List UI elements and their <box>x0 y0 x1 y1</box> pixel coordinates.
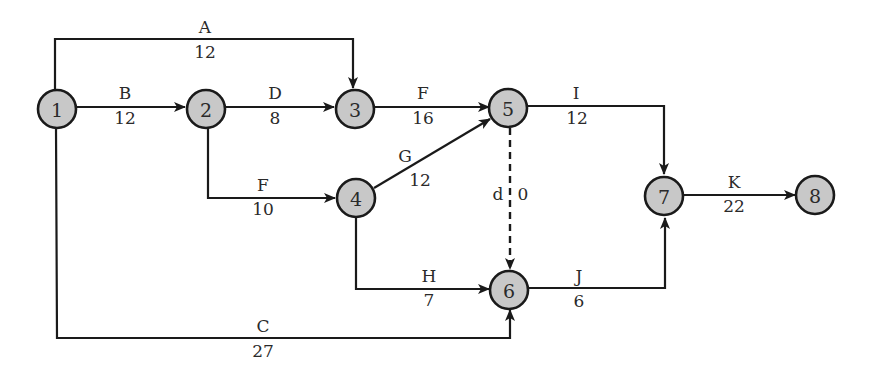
node-1-label: 1 <box>51 99 63 121</box>
edge-F-3-5: F 16 <box>374 83 489 128</box>
edge-K-activity: K <box>728 172 741 192</box>
node-8-label: 8 <box>809 185 821 207</box>
edge-F-2-4-duration: 10 <box>252 199 274 219</box>
edge-D-duration: 8 <box>270 108 281 128</box>
edge-D: D 8 <box>225 83 334 128</box>
node-7-label: 7 <box>658 186 670 208</box>
edge-C: C 27 <box>56 128 510 361</box>
edge-I: I 12 <box>528 83 664 174</box>
edge-H-duration: 7 <box>424 290 435 310</box>
network-diagram: A 12 B 12 C 27 D 8 F 10 F 16 G 12 H <box>0 0 873 374</box>
edge-J-duration: 6 <box>574 291 585 311</box>
edge-B-duration: 12 <box>114 108 136 128</box>
node-1: 1 <box>38 90 76 128</box>
edge-A: A 12 <box>55 17 353 90</box>
edge-J: J 6 <box>529 218 665 311</box>
node-2: 2 <box>187 90 225 128</box>
edge-G-duration: 12 <box>409 170 431 190</box>
edge-H-activity: H <box>422 266 437 286</box>
edge-G-activity: G <box>398 146 412 166</box>
node-6-label: 6 <box>503 280 515 302</box>
edge-K: K 22 <box>684 172 795 216</box>
edge-C-activity: C <box>256 316 269 336</box>
edge-I-activity: I <box>573 83 580 103</box>
edge-B-activity: B <box>119 83 132 103</box>
edge-H: H 7 <box>356 217 489 310</box>
edge-B: B 12 <box>76 83 185 128</box>
edge-A-duration: 12 <box>194 42 216 62</box>
node-2-label: 2 <box>200 99 212 121</box>
edge-F-2-4-activity: F <box>257 175 269 195</box>
edge-F-3-5-duration: 16 <box>412 108 434 128</box>
node-8: 8 <box>796 176 834 214</box>
edge-F-2-4: F 10 <box>208 127 335 219</box>
edge-J-activity: J <box>574 266 583 286</box>
edge-K-duration: 22 <box>723 196 745 216</box>
node-4-label: 4 <box>350 188 362 210</box>
edge-D-activity: D <box>268 83 282 103</box>
edge-dummy-activity: d <box>493 184 504 204</box>
edge-C-duration: 27 <box>252 341 274 361</box>
node-3: 3 <box>336 90 374 128</box>
node-4: 4 <box>337 179 375 217</box>
node-3-label: 3 <box>349 99 361 121</box>
node-6: 6 <box>490 271 528 309</box>
edge-G: G 12 <box>374 119 490 190</box>
edge-I-duration: 12 <box>566 108 588 128</box>
node-5: 5 <box>489 89 527 127</box>
edge-A-activity: A <box>198 17 212 37</box>
node-5-label: 5 <box>502 98 514 120</box>
node-7: 7 <box>645 177 683 215</box>
edge-dummy-duration: 0 <box>518 184 529 204</box>
edge-F-3-5-activity: F <box>417 83 429 103</box>
edge-dummy: d 0 <box>493 128 529 269</box>
